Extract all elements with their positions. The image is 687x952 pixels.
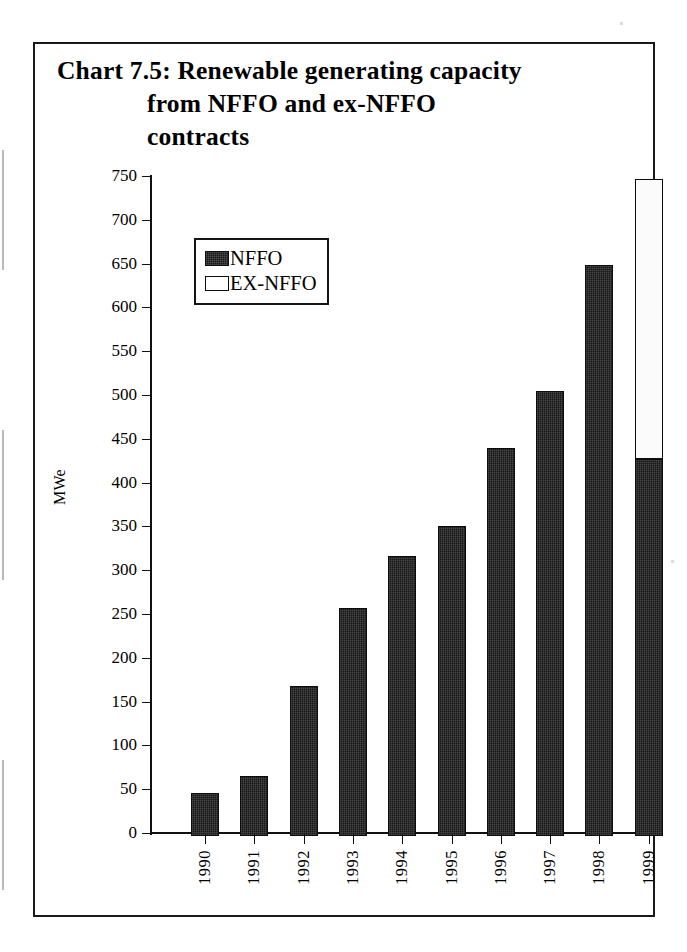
scan-edge-mark-left-mid bbox=[2, 430, 4, 580]
scan-edge-mark-left-bottom bbox=[2, 760, 4, 890]
bar-segment-nffo bbox=[290, 686, 318, 836]
y-axis-tick bbox=[142, 220, 151, 221]
bar-column bbox=[487, 179, 515, 836]
x-axis-tick bbox=[304, 834, 305, 844]
y-axis-tick-label-text: 750 bbox=[63, 167, 137, 184]
x-axis-tick-label: 1993 bbox=[344, 850, 361, 885]
y-axis-tick-label: 0 bbox=[57, 824, 137, 841]
y-axis-tick bbox=[142, 658, 151, 659]
bar-column bbox=[388, 179, 416, 836]
bar-segment-nffo bbox=[240, 776, 268, 836]
y-axis-tick-label: 300 bbox=[57, 561, 137, 578]
y-axis-tick-label: 550 bbox=[57, 342, 137, 359]
x-axis-tick-label: 1992 bbox=[295, 850, 312, 885]
bar-segment-nffo bbox=[339, 608, 367, 836]
y-axis-tick bbox=[142, 483, 151, 484]
bar-segment-nffo bbox=[388, 556, 416, 836]
bar-segment-nffo bbox=[536, 391, 564, 836]
x-axis-tick-label: 1994 bbox=[393, 850, 410, 885]
y-axis-tick-label: 750 bbox=[57, 167, 137, 184]
y-axis-tick-label-text: 50 bbox=[63, 780, 137, 797]
y-axis-tick-label: 350 bbox=[57, 517, 137, 534]
bar-segment-nffo bbox=[635, 459, 663, 836]
y-axis-tick-label-text: 250 bbox=[63, 605, 137, 622]
legend-swatch-nffo-icon bbox=[205, 251, 229, 266]
y-axis-tick-label: 200 bbox=[57, 649, 137, 666]
x-axis-tick bbox=[550, 834, 551, 844]
bar-column bbox=[438, 179, 466, 836]
y-axis-tick-label-text: 0 bbox=[63, 824, 137, 841]
y-axis-tick bbox=[142, 833, 151, 834]
y-axis-tick-label: 150 bbox=[57, 693, 137, 710]
x-axis-tick bbox=[452, 834, 453, 844]
y-axis-tick-label-text: 700 bbox=[63, 211, 137, 228]
y-axis-tick-label-text: 450 bbox=[63, 430, 137, 447]
x-axis-tick-label: 1997 bbox=[541, 850, 558, 885]
chart-legend: NFFO EX-NFFO bbox=[194, 238, 329, 305]
y-axis-tick bbox=[142, 614, 151, 615]
x-axis-tick bbox=[599, 834, 600, 844]
y-axis-tick-label-text: 300 bbox=[63, 561, 137, 578]
y-axis-tick-label-text: 400 bbox=[63, 474, 137, 491]
y-axis-tick-label: 250 bbox=[57, 605, 137, 622]
y-axis-tick-label-text: 550 bbox=[63, 342, 137, 359]
y-axis-tick bbox=[142, 570, 151, 571]
bar-segment-nffo bbox=[191, 793, 219, 836]
y-axis-tick-label-text: 150 bbox=[63, 693, 137, 710]
bar-column bbox=[585, 179, 613, 836]
x-axis-tick bbox=[501, 834, 502, 844]
y-axis-tick bbox=[142, 307, 151, 308]
x-axis-tick bbox=[649, 834, 650, 844]
bar-column bbox=[536, 179, 564, 836]
chart-figure-frame: Chart 7.5: Renewable generating capacity… bbox=[33, 42, 655, 917]
bar-segment-nffo bbox=[585, 265, 613, 836]
y-axis-tick-label: 450 bbox=[57, 430, 137, 447]
legend-item-ex-nffo: EX-NFFO bbox=[205, 271, 317, 296]
y-axis-tick-label: 700 bbox=[57, 211, 137, 228]
x-axis-tick-label: 1990 bbox=[196, 850, 213, 885]
y-axis-tick-label: 650 bbox=[57, 255, 137, 272]
x-axis-tick bbox=[205, 834, 206, 844]
y-axis-line bbox=[150, 175, 152, 835]
y-axis-tick bbox=[142, 526, 151, 527]
bar-segment-nffo bbox=[438, 526, 466, 836]
y-axis-tick-label: 500 bbox=[57, 386, 137, 403]
y-axis-tick-label-text: 500 bbox=[63, 386, 137, 403]
legend-item-nffo: NFFO bbox=[205, 246, 317, 271]
bar-column bbox=[339, 179, 367, 836]
y-axis-tick-label-text: 350 bbox=[63, 517, 137, 534]
y-axis-tick-label-text: 200 bbox=[63, 649, 137, 666]
y-axis-tick bbox=[142, 176, 151, 177]
y-axis-tick bbox=[142, 439, 151, 440]
legend-swatch-ex-nffo-icon bbox=[205, 276, 229, 291]
y-axis-tick-label: 400 bbox=[57, 474, 137, 491]
x-axis-tick bbox=[353, 834, 354, 844]
y-axis-tick bbox=[142, 745, 151, 746]
bar-segment-nffo bbox=[487, 448, 515, 836]
plot-area: MWe 050100150200250300350400450500550600… bbox=[35, 44, 653, 915]
y-axis-tick bbox=[142, 702, 151, 703]
x-axis-tick bbox=[254, 834, 255, 844]
x-axis-tick bbox=[402, 834, 403, 844]
y-axis-tick-label: 100 bbox=[57, 736, 137, 753]
legend-label-ex-nffo: EX-NFFO bbox=[230, 273, 317, 294]
y-axis-tick bbox=[142, 264, 151, 265]
legend-label-nffo: NFFO bbox=[230, 248, 282, 269]
y-axis-tick-label-text: 100 bbox=[63, 736, 137, 753]
scan-edge-mark-left-top bbox=[2, 150, 4, 270]
bar-column bbox=[635, 179, 663, 836]
x-axis-tick-label: 1991 bbox=[245, 850, 262, 885]
x-axis-tick-label: 1995 bbox=[443, 850, 460, 885]
scan-speck-top-right bbox=[620, 22, 623, 25]
bar-segment-ex-nffo bbox=[635, 179, 663, 459]
x-axis-tick-label: 1998 bbox=[590, 850, 607, 885]
y-axis-tick bbox=[142, 789, 151, 790]
y-axis-tick-label-text: 650 bbox=[63, 255, 137, 272]
scan-speck-right-mid bbox=[671, 560, 674, 563]
y-axis-tick-label-text: 600 bbox=[63, 298, 137, 315]
y-axis-tick-label: 600 bbox=[57, 298, 137, 315]
y-axis-tick bbox=[142, 395, 151, 396]
y-axis-tick-label: 50 bbox=[57, 780, 137, 797]
y-axis-tick bbox=[142, 351, 151, 352]
x-axis-tick-label: 1999 bbox=[640, 850, 657, 885]
